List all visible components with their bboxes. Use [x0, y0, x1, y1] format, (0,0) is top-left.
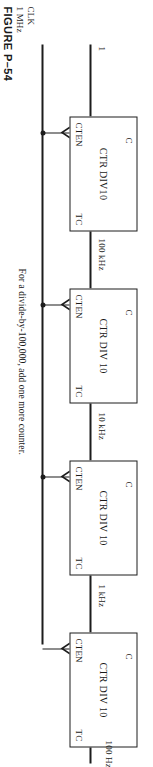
counter-3-clock-junction: [40, 474, 45, 479]
clock-source-caption: CLK 1 MHz: [13, 6, 35, 32]
figure-note: For a divide-by-100,000, add one more co…: [16, 268, 26, 454]
counter-4-title: CTR DIV 10: [98, 633, 109, 746]
counter-4-c-label: C: [123, 653, 133, 659]
counter-box-1[interactable]: CTR DIV10 CTEN TC C: [69, 116, 137, 231]
counter-2-tc-label: TC: [73, 385, 83, 397]
clock-frequency-label: 1 MHz: [13, 6, 24, 32]
counter-3-cten-label: CTEN: [73, 466, 83, 490]
counter-box-3[interactable]: CTR DIV 10 CTEN TC C: [69, 460, 137, 575]
final-output-wire: [89, 747, 91, 763]
counter-box-4[interactable]: CTR DIV 10 CTEN TC C: [69, 632, 137, 747]
counter-3-clock-stub: [42, 476, 69, 478]
counter-3-tc-label: TC: [73, 557, 83, 569]
stage-1-frequency-label: 100 kHz: [96, 238, 106, 270]
clock-name-label: CLK: [24, 6, 35, 32]
counter-2-title: CTR DIV 10: [98, 289, 109, 402]
counter-2-clock-stub: [42, 304, 69, 306]
stage-3-output-wire: [89, 575, 91, 632]
counter-1-title: CTR DIV10: [98, 117, 109, 230]
counter-4-cten-label: CTEN: [73, 638, 83, 662]
counter-2-clock-junction: [40, 302, 45, 307]
enable-input-label: 1: [96, 46, 106, 51]
counter-4-clock-stub: [42, 648, 69, 650]
stage-2-frequency-label: 10 kHz: [96, 412, 106, 439]
stage-1-output-wire: [89, 231, 91, 288]
counter-3-title: CTR DIV 10: [98, 461, 109, 574]
counter-4-tc-label: TC: [73, 729, 83, 741]
counter-1-clock-junction: [40, 130, 45, 135]
final-output-frequency-label: 100 Hz: [103, 740, 113, 767]
counter-1-tc-label: TC: [73, 213, 83, 225]
counter-3-c-label: C: [123, 481, 133, 487]
figure-caption: FIGURE P–54: [1, 6, 13, 81]
counter-1-c-label: C: [123, 137, 133, 143]
counter-2-c-label: C: [123, 309, 133, 315]
counter-box-2[interactable]: CTR DIV 10 CTEN TC C: [69, 288, 137, 403]
counter-1-cten-label: CTEN: [73, 122, 83, 146]
counter-1-clock-stub: [42, 132, 69, 134]
stage-2-output-wire: [89, 403, 91, 460]
stage-3-frequency-label: 1 kHz: [96, 584, 106, 607]
counter-2-cten-label: CTEN: [73, 294, 83, 318]
enable-input-wire: [89, 44, 91, 116]
